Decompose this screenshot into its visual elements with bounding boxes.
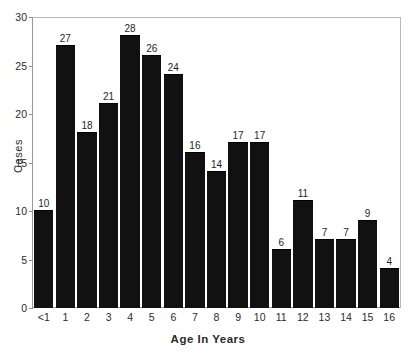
x-tick-label: <1 (38, 311, 50, 323)
y-tick-label: 15 (0, 157, 27, 169)
bar[interactable] (228, 142, 247, 308)
x-tick-label: 1 (62, 311, 68, 323)
bar[interactable] (315, 239, 334, 308)
y-tick-label: 0 (0, 302, 27, 314)
bar-slot: 24 (164, 17, 183, 308)
x-tick-label: 11 (276, 311, 287, 323)
x-tick-label: 8 (214, 311, 220, 323)
bar-slot: 28 (120, 17, 139, 308)
bar[interactable] (99, 103, 118, 308)
x-tick-label: 13 (319, 311, 331, 323)
x-tick-label: 16 (383, 311, 395, 323)
bar-slot: 7 (336, 17, 355, 308)
x-tick-label: 15 (362, 311, 374, 323)
x-tick-label: 14 (340, 311, 352, 323)
x-tick-label: 3 (106, 311, 112, 323)
x-tick-label: 10 (254, 311, 266, 323)
bar[interactable] (380, 268, 399, 308)
x-tick-label: 5 (149, 311, 155, 323)
x-tick-label: 9 (235, 311, 241, 323)
x-tick-label: 4 (127, 311, 133, 323)
bar[interactable] (77, 132, 96, 308)
x-tick-label: 2 (84, 311, 90, 323)
y-tick-label: 20 (0, 108, 27, 120)
y-tick-label: 5 (0, 254, 27, 266)
bar-slot: 10 (34, 17, 53, 308)
bars-container: 10271821282624161417176117794 (33, 17, 400, 308)
bar[interactable] (250, 142, 269, 308)
bar[interactable] (336, 239, 355, 308)
y-tick-mark (29, 308, 33, 309)
bar-slot: 4 (380, 17, 399, 308)
bar-slot: 14 (207, 17, 226, 308)
x-tick-label: 7 (192, 311, 198, 323)
bar-slot: 21 (99, 17, 118, 308)
bar-chart: Cases 051015202530 102718212826241614171… (0, 0, 416, 354)
bar-value-label: 4 (374, 256, 405, 267)
bar-slot: 18 (77, 17, 96, 308)
bar[interactable] (120, 35, 139, 308)
bar-slot: 17 (250, 17, 269, 308)
bar[interactable] (142, 55, 161, 308)
bar[interactable] (34, 210, 53, 308)
x-tick-label: 12 (297, 311, 309, 323)
y-tick-label: 10 (0, 205, 27, 217)
bar-slot: 27 (56, 17, 75, 308)
bar[interactable] (293, 200, 312, 308)
bar[interactable] (185, 152, 204, 308)
y-tick-label: 30 (0, 11, 27, 23)
bar[interactable] (56, 45, 75, 308)
bar-slot: 17 (228, 17, 247, 308)
bar-slot: 6 (272, 17, 291, 308)
y-tick-label: 25 (0, 60, 27, 72)
bar[interactable] (207, 171, 226, 308)
bar-slot: 11 (293, 17, 312, 308)
x-axis-title: Age In Years (0, 333, 416, 345)
bar[interactable] (272, 249, 291, 308)
bar-slot: 26 (142, 17, 161, 308)
x-tick-label: 6 (170, 311, 176, 323)
bar-slot: 7 (315, 17, 334, 308)
bar[interactable] (164, 74, 183, 308)
